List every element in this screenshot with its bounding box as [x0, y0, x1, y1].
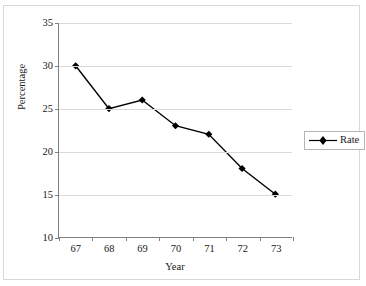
legend-label-rate: Rate	[340, 135, 359, 146]
gridline-y	[59, 109, 292, 110]
y-tick-label: 10	[43, 233, 54, 244]
series-line-rate	[59, 23, 292, 237]
chart-frame: Percentage 10152025303567686970717273 Ye…	[3, 5, 360, 280]
x-tick-label: 68	[104, 244, 115, 255]
gridline-y	[59, 23, 292, 24]
legend-marker-icon	[309, 135, 337, 146]
x-tick-label: 69	[137, 244, 148, 255]
x-tick-label: 67	[70, 244, 81, 255]
legend-item-rate[interactable]: Rate	[309, 135, 359, 146]
gridline-y	[59, 152, 292, 153]
y-tick-label: 15	[43, 190, 54, 201]
x-tick-mark	[260, 237, 261, 241]
y-tick-label: 25	[43, 104, 54, 115]
x-tick-label: 72	[238, 244, 249, 255]
y-tick-label: 20	[43, 147, 54, 158]
y-tick-mark	[55, 152, 59, 153]
data-line	[76, 66, 276, 194]
x-tick-mark	[226, 237, 227, 241]
x-tick-mark	[293, 237, 294, 241]
chart-legend: Rate	[304, 131, 365, 150]
y-tick-label: 30	[43, 61, 54, 72]
gridline-y	[59, 195, 292, 196]
y-tick-label: 35	[43, 18, 54, 29]
x-tick-mark	[159, 237, 160, 241]
x-axis-title: Year	[58, 262, 292, 273]
gridline-y	[59, 66, 292, 67]
y-tick-mark	[55, 195, 59, 196]
y-tick-mark	[55, 66, 59, 67]
y-axis-title: Percentage	[17, 96, 28, 110]
x-tick-mark	[126, 237, 127, 241]
x-tick-mark	[193, 237, 194, 241]
y-tick-mark	[55, 109, 59, 110]
x-tick-label: 71	[204, 244, 215, 255]
plot-area: 10152025303567686970717273	[58, 23, 292, 238]
x-tick-label: 70	[171, 244, 182, 255]
x-tick-mark	[92, 237, 93, 241]
x-tick-mark	[59, 237, 60, 241]
x-tick-label: 73	[271, 244, 282, 255]
y-tick-mark	[55, 23, 59, 24]
